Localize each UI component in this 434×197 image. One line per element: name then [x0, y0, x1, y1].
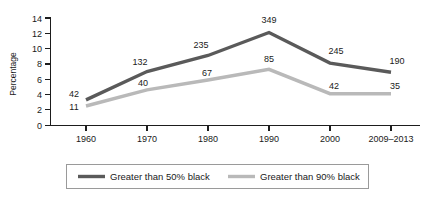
data-label-s1-1980: 67 — [202, 68, 212, 78]
x-tick-label-2009-2013: 2009–2013 — [368, 134, 413, 144]
data-label-s0-1990: 349 — [261, 15, 276, 25]
data-label-s1-2000: 42 — [329, 81, 339, 91]
y-tick-label-0: 0 — [37, 121, 42, 131]
y-tick-label-14: 14 — [32, 14, 42, 24]
y-tick-label-12: 12 — [32, 29, 42, 39]
x-tick-label-1970: 1970 — [137, 134, 157, 144]
data-label-s0-1970: 132 — [132, 57, 147, 67]
data-label-s0-2009-2013: 190 — [389, 56, 404, 66]
y-tick-label-4: 4 — [37, 90, 42, 100]
data-label-s0-2000: 245 — [328, 46, 343, 56]
data-label-s0-1960: 42 — [69, 89, 79, 99]
series-line-greater-than-90-percent — [86, 69, 391, 106]
y-axis-title: Percentage — [8, 52, 18, 96]
y-tick-label-2: 2 — [37, 105, 42, 115]
data-label-s1-2009-2013: 35 — [390, 81, 400, 91]
legend-label-greater-than-90-percent: Greater than 90% black — [260, 171, 360, 182]
y-tick-label-8: 8 — [37, 59, 42, 69]
axis-lines — [51, 17, 421, 126]
data-label-s1-1970: 40 — [138, 78, 148, 88]
data-label-s1-1960: 11 — [69, 102, 78, 112]
data-label-s1-1990: 85 — [264, 54, 274, 64]
x-tick-label-1990: 1990 — [259, 134, 279, 144]
x-tick-label-2000: 2000 — [320, 134, 340, 144]
y-tick-label-10: 10 — [32, 44, 42, 54]
data-label-s0-1980: 235 — [193, 40, 208, 50]
chart-legend: Greater than 50% black Greater than 90% … — [67, 165, 369, 189]
y-tick-label-6: 6 — [37, 75, 42, 85]
x-tick-label-1960: 1960 — [76, 134, 96, 144]
legend-label-greater-than-50-percent: Greater than 50% black — [110, 171, 210, 182]
x-axis-ticks — [86, 126, 391, 132]
x-tick-label-1980: 1980 — [198, 134, 218, 144]
y-axis-ticks — [45, 18, 50, 125]
line-chart: Percentage 14 12 10 8 6 4 2 0 — [0, 0, 434, 197]
chart-container: Percentage 14 12 10 8 6 4 2 0 — [0, 0, 434, 197]
